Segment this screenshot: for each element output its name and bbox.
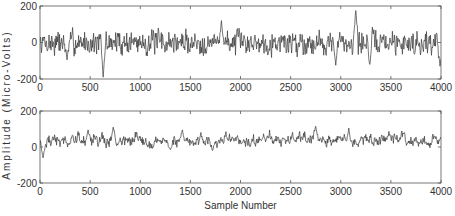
x-tick-label: 2500: [280, 186, 303, 197]
signal-line: [40, 126, 441, 158]
x-tick-label: 4000: [430, 186, 453, 197]
x-axis-label: Sample Number: [204, 200, 277, 211]
x-tick-label: 1500: [179, 186, 202, 197]
x-tick-label: 2000: [229, 186, 252, 197]
x-tick-label: 1000: [129, 82, 152, 93]
x-tick-label: 0: [37, 186, 43, 197]
x-tick-label: 3000: [330, 82, 353, 93]
x-tick-label: 1000: [129, 186, 152, 197]
x-tick-label: 3500: [380, 186, 403, 197]
x-tick-label: 4000: [430, 82, 453, 93]
y-tick-label: 200: [20, 106, 37, 117]
y-tick-label: 200: [20, 1, 37, 12]
y-tick-label: -200: [17, 178, 37, 189]
axes-frame: [40, 111, 441, 183]
x-tick-label: 1500: [179, 82, 202, 93]
x-tick-label: 2500: [280, 82, 303, 93]
x-tick-label: 2000: [229, 82, 252, 93]
chart-figure: 050010001500200025003000350040002000-200…: [0, 0, 455, 216]
x-tick-label: 500: [82, 186, 99, 197]
x-tick-label: 3000: [330, 186, 353, 197]
y-tick-label: -200: [17, 74, 37, 85]
x-tick-label: 0: [37, 82, 43, 93]
x-tick-label: 3500: [380, 82, 403, 93]
top-plot: 050010001500200025003000350040002000-200: [17, 1, 453, 94]
x-tick-label: 500: [82, 82, 99, 93]
y-tick-label: 0: [31, 142, 37, 153]
signal-line: [40, 11, 441, 78]
bottom-plot: 050010001500200025003000350040002000-200: [17, 106, 453, 198]
y-tick-label: 0: [31, 37, 37, 48]
y-axis-label: Amplitude (Micro-Volts): [1, 30, 12, 179]
